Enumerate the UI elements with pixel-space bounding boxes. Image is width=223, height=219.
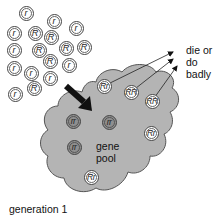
allele-circle: r	[47, 14, 62, 29]
gene-pool-label-line1: gene	[96, 140, 119, 152]
genotype-circle: Rr	[144, 126, 159, 141]
allele-circle: r	[62, 58, 77, 73]
allele-circle: r	[19, 6, 34, 21]
allele-circle: r	[69, 21, 84, 36]
allele-circle: R	[43, 54, 58, 69]
allele-circle: R	[28, 26, 43, 41]
gene-pool-label-line2: pool	[96, 152, 116, 164]
genotype-circle: rr	[67, 140, 82, 155]
genotype-circle: RR	[145, 94, 160, 109]
genotype-circle: RR	[124, 85, 139, 100]
genotype-circle: Rr	[97, 79, 112, 94]
allele-circle: r	[7, 61, 22, 76]
outcome-label-line2: do badly	[186, 56, 223, 80]
genotype-circle: Rr	[84, 170, 99, 185]
allele-circle: r	[7, 26, 22, 41]
allele-circle: r	[7, 43, 22, 58]
allele-circle: R	[77, 40, 92, 55]
outcome-label-line1: die or	[186, 44, 212, 56]
allele-circle: R	[44, 30, 59, 45]
gene-pool-diagram: rrrrRRrRRRRrrrrRr RrRRRRrrrrrrRrRr die o…	[0, 0, 223, 219]
allele-circle: r	[43, 71, 58, 86]
allele-circle: r	[8, 87, 23, 102]
allele-circle: R	[27, 81, 42, 96]
genotype-circle: rr	[102, 115, 117, 130]
allele-circle: R	[59, 41, 74, 56]
generation-label: generation 1	[9, 203, 67, 215]
allele-circle: r	[24, 66, 39, 81]
genotype-circle: rr	[66, 114, 81, 129]
